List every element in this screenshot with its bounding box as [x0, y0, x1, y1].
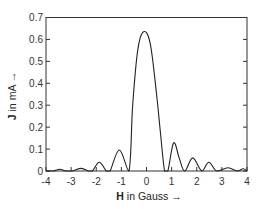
y-tick-label: 0.5: [29, 56, 43, 67]
x-tick-label: -4: [42, 176, 51, 187]
plot-frame: [46, 18, 247, 172]
x-axis-ticks: -4-3-2-101234: [42, 167, 251, 187]
chart: 00.10.20.30.40.50.60.7 -4-3-2-101234 H i…: [0, 0, 258, 209]
data-line: [46, 31, 247, 171]
x-tick-label: 3: [219, 176, 225, 187]
y-tick-label: 0: [37, 166, 43, 177]
y-tick-label: 0.2: [29, 122, 43, 133]
y-tick-label: 0.4: [29, 78, 43, 89]
y-tick-label: 0.6: [29, 34, 43, 45]
x-tick-label: -2: [92, 176, 101, 187]
y-tick-label: 0.3: [29, 100, 43, 111]
x-tick-label: -1: [117, 176, 126, 187]
y-axis-title: J in mA →: [6, 72, 18, 120]
x-tick-label: 0: [144, 176, 150, 187]
y-tick-label: 0.7: [29, 12, 43, 23]
y-tick-label: 0.1: [29, 144, 43, 155]
x-tick-label: -3: [67, 176, 76, 187]
x-tick-label: 1: [169, 176, 175, 187]
x-axis-title: H in Gauss →: [116, 190, 181, 202]
x-tick-label: 4: [244, 176, 250, 187]
x-tick-label: 2: [194, 176, 200, 187]
y-axis-ticks: 00.10.20.30.40.50.60.7: [29, 12, 247, 177]
